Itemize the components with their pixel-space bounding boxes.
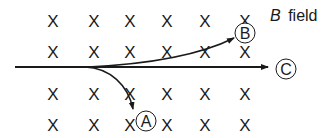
field-x-marker: X bbox=[88, 12, 99, 31]
label-b-text: B bbox=[240, 25, 251, 42]
field-x-marker: X bbox=[124, 43, 135, 62]
field-x-marker: X bbox=[47, 116, 58, 135]
field-x-marker: X bbox=[199, 12, 210, 31]
field-x-marker: X bbox=[124, 12, 135, 31]
field-x-marker: X bbox=[47, 85, 58, 104]
field-x-marker: X bbox=[161, 85, 172, 104]
label-c: C bbox=[276, 59, 296, 79]
field-x-marker: X bbox=[161, 12, 172, 31]
label-c-text: C bbox=[280, 61, 292, 78]
field-x-marker: X bbox=[199, 43, 210, 62]
field-x-marker: X bbox=[161, 116, 172, 135]
field-x-marker: X bbox=[199, 85, 210, 104]
field-x-marker: X bbox=[239, 43, 250, 62]
field-x-marker: X bbox=[47, 43, 58, 62]
field-x-marker: X bbox=[88, 43, 99, 62]
magnetic-field-diagram: XXXXXXXXXXXXXXXXXXXXXXXX B C A B field bbox=[0, 0, 322, 138]
field-x-marker: X bbox=[124, 85, 135, 104]
field-x-marker: X bbox=[239, 85, 250, 104]
field-x-marker: X bbox=[88, 85, 99, 104]
b-field-label: B field bbox=[270, 7, 317, 24]
label-a-text: A bbox=[141, 113, 152, 130]
field-x-marker: X bbox=[88, 116, 99, 135]
label-a: A bbox=[136, 111, 156, 131]
b-field-symbol: B bbox=[270, 7, 281, 24]
field-x-marker: X bbox=[199, 116, 210, 135]
field-x-marker: X bbox=[47, 12, 58, 31]
field-x-marker: X bbox=[124, 116, 135, 135]
label-b: B bbox=[235, 23, 255, 43]
b-field-word: field bbox=[288, 7, 317, 24]
field-x-marker: X bbox=[239, 116, 250, 135]
